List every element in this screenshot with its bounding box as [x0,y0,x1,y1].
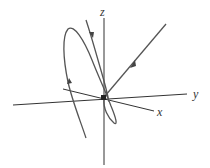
incoming-straight-line [105,24,166,96]
spiral-trajectory [64,20,116,138]
arrow-icon [130,60,136,68]
trajectory-diagram: z y x [0,0,210,168]
origin-marker [101,95,106,100]
z-axis-label: z [99,5,105,19]
axes [13,18,187,165]
x-axis-label: x [156,105,163,119]
y-axis [13,94,187,105]
y-axis-label: y [192,87,199,101]
